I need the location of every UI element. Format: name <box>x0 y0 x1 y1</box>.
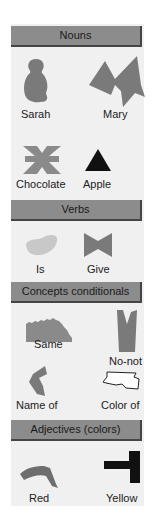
label-name-of: Name of <box>16 399 58 411</box>
color-of-symbol-icon <box>102 371 140 391</box>
label-same: Same <box>34 338 63 350</box>
give-symbol-icon <box>84 233 112 257</box>
label-chocolate: Chocolate <box>16 178 66 190</box>
label-mary: Mary <box>103 108 127 120</box>
label-sarah: Sarah <box>21 108 50 120</box>
section-header-verbs: Verbs <box>11 200 142 221</box>
yellow-symbol-icon <box>104 451 140 483</box>
red-symbol-icon <box>20 464 58 488</box>
section-header-adjectives-colors: Adjectives (colors) <box>11 420 142 441</box>
label-apple: Apple <box>83 178 111 190</box>
section-header-concepts-conditionals: Concepts conditionals <box>11 282 142 303</box>
label-yellow: Yellow <box>106 492 137 504</box>
label-give: Give <box>87 263 110 275</box>
mary-symbol-icon <box>85 55 145 109</box>
apple-symbol-icon <box>85 149 111 171</box>
chocolate-symbol-icon <box>23 146 61 174</box>
is-symbol-icon <box>24 234 58 256</box>
label-is: Is <box>36 263 45 275</box>
no-not-symbol-icon <box>117 310 137 352</box>
section-header-nouns: Nouns <box>11 26 142 47</box>
label-red: Red <box>29 492 49 504</box>
name-of-symbol-icon <box>29 366 47 396</box>
label-color-of: Color of <box>101 399 140 411</box>
label-no-not: No-not <box>109 355 142 367</box>
sarah-symbol-icon <box>22 58 50 104</box>
